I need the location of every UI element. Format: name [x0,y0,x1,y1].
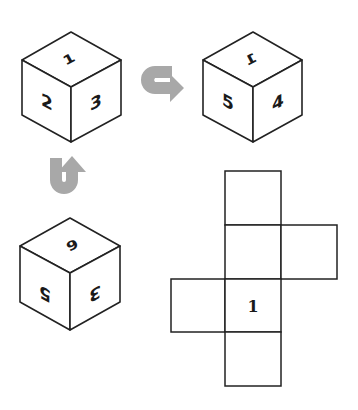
net-cell-bottom [225,332,281,386]
net-cell-center-number: 1 [247,297,258,316]
cube-2: 1 5 4 [203,32,302,142]
cube-3: 6 5 3 [20,218,120,330]
u-turn-arrow-right-icon [141,66,184,102]
net-cell-top [225,171,281,225]
net-cell-left [171,279,225,332]
cube-puzzle-diagram: 1 2 3 1 5 4 6 5 3 1 [0,0,358,410]
net-cell-right [281,225,337,279]
u-turn-arrow-up-icon [50,156,86,194]
net-cell-upper-middle [225,225,281,279]
cube-net: 1 [171,171,337,386]
cube-1: 1 2 3 [22,32,121,142]
